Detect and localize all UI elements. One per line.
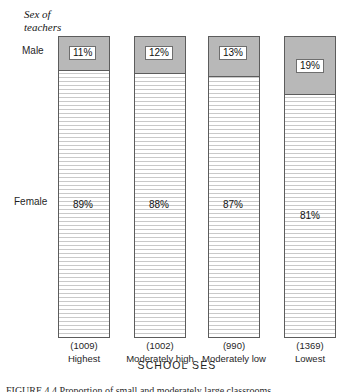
bar-label-male-moderately-high: 12% (145, 46, 173, 60)
bar-label-male-lowest: 19% (296, 59, 324, 73)
bar-highest: 11% 89% (58, 36, 110, 338)
bar-label-male-highest: 11% (69, 46, 96, 60)
bar-label-male-moderately-low: 13% (219, 46, 247, 60)
bar-lowest: 19% 81% (284, 36, 336, 338)
bar-moderately-low: 13% 87% (208, 36, 260, 338)
bar-label-female-moderately-high: 88% (145, 198, 173, 212)
bar-moderately-high: 12% 88% (134, 36, 186, 338)
x-tick-count-lowest: (1369) (270, 340, 350, 353)
bar-label-female-highest: 89% (69, 198, 97, 212)
x-tick-count-moderately-low: (990) (187, 340, 281, 353)
x-axis-title: SCHOOL SES (0, 359, 354, 371)
bar-label-female-lowest: 81% (296, 209, 324, 223)
x-tick-count-highest: (1009) (44, 340, 124, 353)
bar-label-female-moderately-low: 87% (219, 198, 247, 212)
figure-caption: FIGURE 4.4 Proportion of small and moder… (6, 385, 348, 392)
chart-plot-area: 11% 89% 12% 88% 13% 87% 19% 81% (1009) H… (0, 0, 354, 392)
